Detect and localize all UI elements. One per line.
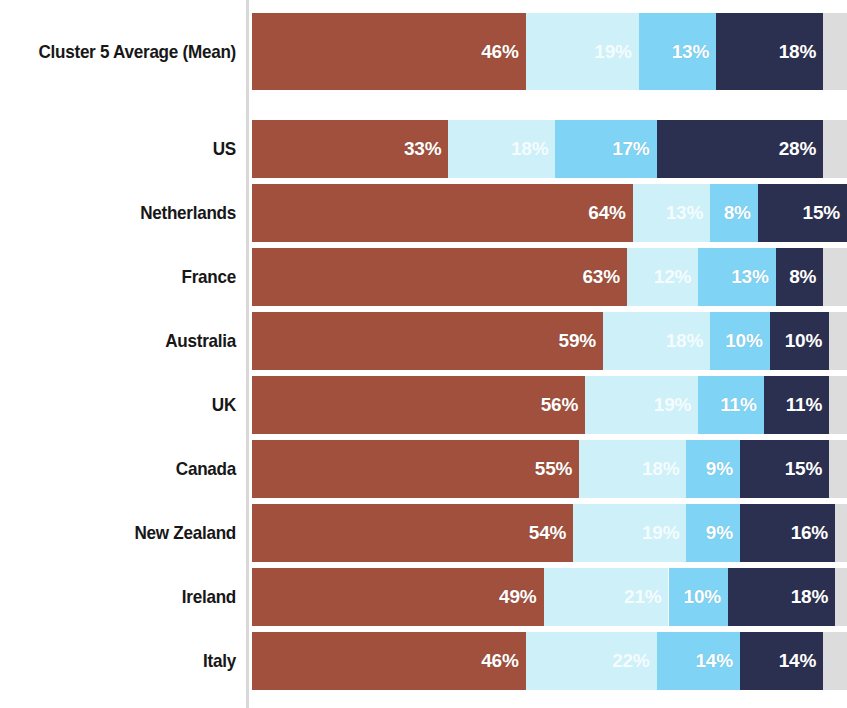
segment-value-label: 22% <box>612 650 649 672</box>
bar-segment-segment-3: 17% <box>555 120 656 178</box>
segment-value-label: 46% <box>481 650 518 672</box>
segment-value-label: 64% <box>588 202 625 224</box>
bar-segment-segment-1: 46% <box>252 13 526 90</box>
bar-segment-segment-3: 10% <box>710 312 770 370</box>
bar-segment-segment-5 <box>835 504 847 562</box>
bar-track: 46%22%14%14% <box>252 632 847 690</box>
bar-row: Australia59%18%10%10% <box>0 312 847 370</box>
bar-row: Italy46%22%14%14% <box>0 632 847 690</box>
segment-value-label: 33% <box>404 138 441 160</box>
segment-value-label: 63% <box>582 266 619 288</box>
bar-segment-segment-3: 11% <box>698 376 763 434</box>
bar-row: Ireland49%21%10%18% <box>0 568 847 626</box>
category-label: Cluster 5 Average (Mean) <box>24 13 236 90</box>
bar-segment-segment-1: 46% <box>252 632 526 690</box>
segment-value-label: 11% <box>786 394 822 416</box>
segment-value-label: 21% <box>624 586 661 608</box>
bar-track: 55%18%9%15% <box>252 440 847 498</box>
bar-row: Netherlands64%13%8%15% <box>0 184 847 242</box>
segment-value-label: 28% <box>779 138 816 160</box>
bar-row: France63%12%13%8% <box>0 248 847 306</box>
segment-value-label: 15% <box>803 202 840 224</box>
stacked-bar-chart: Cluster 5 Average (Mean)46%19%13%18%US33… <box>0 0 847 708</box>
bar-row: Canada55%18%9%15% <box>0 440 847 498</box>
segment-value-label: 16% <box>791 522 828 544</box>
bar-row: Cluster 5 Average (Mean)46%19%13%18% <box>0 13 847 90</box>
segment-value-label: 18% <box>666 330 703 352</box>
bar-segment-segment-1: 59% <box>252 312 603 370</box>
bar-segment-segment-5 <box>823 248 847 306</box>
segment-value-label: 8% <box>724 202 751 224</box>
segment-value-label: 19% <box>654 394 691 416</box>
bar-segment-segment-3: 9% <box>686 440 740 498</box>
bar-segment-segment-5 <box>835 568 847 626</box>
category-label: US <box>24 120 236 178</box>
bar-segment-segment-1: 56% <box>252 376 585 434</box>
category-label: Canada <box>24 440 236 498</box>
bar-track: 49%21%10%18% <box>252 568 847 626</box>
bar-segment-segment-3: 10% <box>669 568 729 626</box>
bar-segment-segment-2: 19% <box>585 376 698 434</box>
bar-segment-segment-2: 22% <box>526 632 657 690</box>
bar-segment-segment-2: 21% <box>544 568 669 626</box>
bar-segment-segment-1: 49% <box>252 568 544 626</box>
bar-segment-segment-2: 18% <box>603 312 710 370</box>
segment-value-label: 10% <box>684 586 721 608</box>
bar-segment-segment-4: 15% <box>758 184 847 242</box>
bar-track: 33%18%17%28% <box>252 120 847 178</box>
segment-value-label: 11% <box>720 394 756 416</box>
bar-segment-segment-5 <box>823 120 847 178</box>
bar-segment-segment-2: 13% <box>633 184 710 242</box>
bar-segment-segment-4: 18% <box>716 13 823 90</box>
bar-segment-segment-5 <box>829 376 847 434</box>
segment-value-label: 10% <box>785 330 822 352</box>
bar-segment-segment-5 <box>829 312 847 370</box>
bar-segment-segment-4: 15% <box>740 440 829 498</box>
bar-row: New Zealand54%19%9%16% <box>0 504 847 562</box>
bar-segment-segment-1: 33% <box>252 120 448 178</box>
chart-rows-container: Cluster 5 Average (Mean)46%19%13%18%US33… <box>0 0 847 708</box>
bar-segment-segment-3: 8% <box>710 184 758 242</box>
bar-segment-segment-4: 10% <box>770 312 830 370</box>
segment-value-label: 59% <box>559 330 596 352</box>
bar-track: 64%13%8%15% <box>252 184 847 242</box>
segment-value-label: 10% <box>725 330 762 352</box>
bar-track: 59%18%10%10% <box>252 312 847 370</box>
bar-row: US33%18%17%28% <box>0 120 847 178</box>
segment-value-label: 19% <box>594 41 631 63</box>
bar-segment-segment-2: 18% <box>579 440 686 498</box>
segment-value-label: 18% <box>791 586 828 608</box>
segment-value-label: 9% <box>706 522 733 544</box>
bar-segment-segment-1: 55% <box>252 440 579 498</box>
segment-value-label: 8% <box>789 266 816 288</box>
bar-segment-segment-1: 54% <box>252 504 573 562</box>
segment-value-label: 46% <box>481 41 518 63</box>
bar-track: 56%19%11%11% <box>252 376 847 434</box>
segment-value-label: 18% <box>511 138 548 160</box>
bar-segment-segment-5 <box>829 440 847 498</box>
bar-segment-segment-5 <box>823 13 847 90</box>
segment-value-label: 55% <box>535 458 572 480</box>
segment-value-label: 56% <box>541 394 578 416</box>
bar-segment-segment-2: 19% <box>526 13 639 90</box>
bar-segment-segment-1: 64% <box>252 184 633 242</box>
segment-value-label: 13% <box>672 41 709 63</box>
bar-segment-segment-4: 14% <box>740 632 823 690</box>
segment-value-label: 12% <box>654 266 691 288</box>
segment-value-label: 14% <box>695 650 732 672</box>
bar-segment-segment-4: 18% <box>728 568 835 626</box>
bar-segment-segment-1: 63% <box>252 248 627 306</box>
category-label: UK <box>24 376 236 434</box>
category-label: Australia <box>24 312 236 370</box>
segment-value-label: 9% <box>706 458 733 480</box>
category-label: New Zealand <box>24 504 236 562</box>
segment-value-label: 13% <box>666 202 703 224</box>
category-label: Ireland <box>24 568 236 626</box>
bar-segment-segment-4: 8% <box>776 248 824 306</box>
segment-value-label: 18% <box>642 458 679 480</box>
bar-row: UK56%19%11%11% <box>0 376 847 434</box>
segment-value-label: 54% <box>529 522 566 544</box>
bar-segment-segment-3: 9% <box>686 504 740 562</box>
segment-value-label: 14% <box>779 650 816 672</box>
bar-track: 63%12%13%8% <box>252 248 847 306</box>
